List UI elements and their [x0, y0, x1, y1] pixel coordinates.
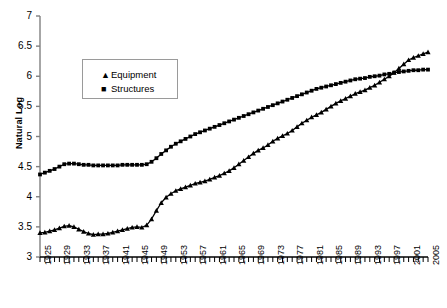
x-axis-tick-label: 1981 [316, 245, 325, 265]
x-axis-tick-label: 1929 [63, 245, 72, 265]
x-axis-tick-label: 1941 [122, 245, 131, 265]
triangle-marker-icon: ▲ [101, 70, 111, 80]
x-axis-tick-label: 1953 [180, 245, 189, 265]
x-axis-tick-label: 1961 [219, 245, 228, 265]
x-axis-tick-label: 1925 [44, 245, 53, 265]
x-axis-tick-label: 1997 [393, 245, 402, 265]
x-axis-tick-label: 1973 [277, 245, 286, 265]
x-axis-tick-label: 1945 [141, 245, 150, 265]
x-axis-tick-label: 1989 [354, 245, 363, 265]
y-axis-tick-label: 6 [6, 71, 32, 81]
y-axis-tick-label: 5.5 [6, 101, 32, 111]
legend-item-equipment: ▲Equipment [101, 70, 156, 80]
legend-item-structures: ■Structures [101, 84, 154, 94]
x-axis-tick-label: 1985 [335, 245, 344, 265]
x-axis-tick-label: 2001 [413, 245, 422, 265]
square-marker-icon: ■ [101, 84, 111, 94]
legend-label-structures: Structures [111, 84, 154, 94]
x-axis-tick-label: 1949 [160, 245, 169, 265]
chart-legend: ▲Equipment ■Structures [82, 59, 178, 99]
y-axis-tick-label: 4 [6, 192, 32, 202]
x-axis-tick-label: 1957 [199, 245, 208, 265]
y-axis-tick-label: 3.5 [6, 222, 32, 232]
x-axis-tick-label: 1937 [102, 245, 111, 265]
x-axis-tick-label: 1965 [238, 245, 247, 265]
legend-label-equipment: Equipment [111, 70, 156, 80]
x-axis-tick-label: 1969 [257, 245, 266, 265]
y-axis-tick-label: 7 [6, 11, 32, 21]
y-axis-tick-label: 6.5 [6, 41, 32, 51]
y-axis-tick-label: 5 [6, 132, 32, 142]
chart-container: Natural Log ▲Equipment ■Structures 33.54… [0, 0, 447, 308]
x-axis-tick-label: 1977 [296, 245, 305, 265]
x-axis-tick-label: 2005 [432, 245, 441, 265]
x-axis-tick-label: 1993 [374, 245, 383, 265]
y-axis-tick-label: 3 [6, 252, 32, 262]
x-axis-tick-label: 1933 [83, 245, 92, 265]
y-axis-tick-label: 4.5 [6, 162, 32, 172]
